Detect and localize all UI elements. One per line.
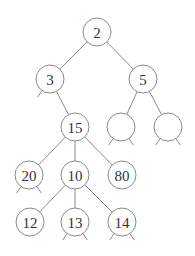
node-label: 14 [115, 215, 131, 231]
edge-n5-e2 [149, 91, 161, 114]
stub-e1-right [129, 139, 134, 146]
edge-n10-n12 [40, 185, 66, 212]
stub-n13-right [83, 234, 88, 241]
tree-node-80: 80 [108, 161, 136, 189]
stub-e2-right [176, 139, 181, 146]
node-label: 12 [23, 215, 38, 231]
nodes-layer: 23515201080121314 [15, 18, 182, 236]
tree-node-10: 10 [61, 161, 89, 189]
node-label: 5 [139, 72, 147, 88]
tree-node-14: 14 [108, 208, 136, 236]
stub-n20-left [17, 187, 22, 194]
node-circle [107, 113, 135, 141]
node-label: 20 [22, 168, 37, 184]
stub-e1-left [109, 139, 114, 146]
node-label: 15 [68, 120, 83, 136]
node-label: 80 [115, 168, 130, 184]
stub-e2-left [156, 139, 161, 146]
stub-n20-right [37, 187, 42, 194]
tree-node-13: 13 [61, 208, 89, 236]
tree-node-empty [107, 113, 135, 141]
stub-n13-left [63, 234, 68, 241]
node-label: 2 [93, 25, 101, 41]
edge-n3-n15 [56, 91, 68, 114]
edge-n15-n80 [85, 137, 112, 165]
tree-node-2: 2 [83, 18, 111, 46]
edge-n5-e1 [127, 92, 137, 115]
node-label: 13 [68, 215, 83, 231]
edge-n2-n3 [60, 42, 87, 69]
node-label: 10 [68, 168, 83, 184]
tree-node-3: 3 [36, 65, 64, 93]
tree-node-15: 15 [61, 113, 89, 141]
tree-diagram: 23515201080121314 [0, 0, 195, 256]
node-label: 3 [46, 72, 54, 88]
edge-n10-n14 [85, 185, 112, 212]
stub-n14-left [110, 234, 115, 241]
edge-n15-n20 [39, 137, 66, 165]
tree-node-12: 12 [16, 208, 44, 236]
tree-node-5: 5 [129, 65, 157, 93]
stub-n14-right [130, 234, 135, 241]
stub-n3-left [38, 91, 43, 98]
tree-node-empty [154, 113, 182, 141]
node-circle [154, 113, 182, 141]
tree-node-20: 20 [15, 161, 43, 189]
edge-n2-n5 [107, 42, 133, 69]
